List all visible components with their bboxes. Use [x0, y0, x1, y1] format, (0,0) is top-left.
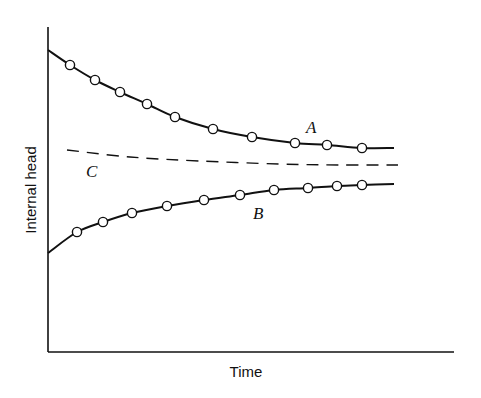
series-a-circle-marker: [322, 140, 331, 149]
series-b-circle-marker: [162, 201, 171, 210]
series-a-circle-marker: [65, 60, 74, 69]
series-a-circle-marker: [290, 138, 299, 147]
series-b-circle-marker: [98, 217, 107, 226]
series-a-label: A: [305, 118, 317, 137]
series-b-circle-marker: [303, 183, 312, 192]
series-c-label: C: [86, 162, 98, 181]
series-b-label: B: [253, 204, 264, 223]
series-a-circle-marker: [90, 75, 99, 84]
series-b-markers: [72, 180, 366, 236]
series-a-circle-marker: [142, 99, 151, 108]
series-a-line: [48, 50, 394, 148]
series-b-circle-marker: [199, 195, 208, 204]
series-b-circle-marker: [269, 185, 278, 194]
series-a-circle-marker: [115, 87, 124, 96]
axes: [48, 27, 454, 352]
series-b-circle-marker: [72, 227, 81, 236]
series-a-circle-marker: [170, 112, 179, 121]
series-b-circle-marker: [357, 180, 366, 189]
series-b-circle-marker: [332, 181, 341, 190]
series-a-circle-marker: [247, 132, 256, 141]
series-b-circle-marker: [235, 190, 244, 199]
series-a-circle-marker: [357, 143, 366, 152]
line-chart: A B C Internal head Time: [0, 0, 481, 398]
y-axis-label: Internal head: [22, 146, 39, 234]
x-axis-label: Time: [230, 363, 263, 380]
series-c-dashed-line: [67, 150, 398, 165]
series-b-circle-marker: [127, 208, 136, 217]
series-a-circle-marker: [208, 124, 217, 133]
series-a-markers: [65, 60, 366, 152]
